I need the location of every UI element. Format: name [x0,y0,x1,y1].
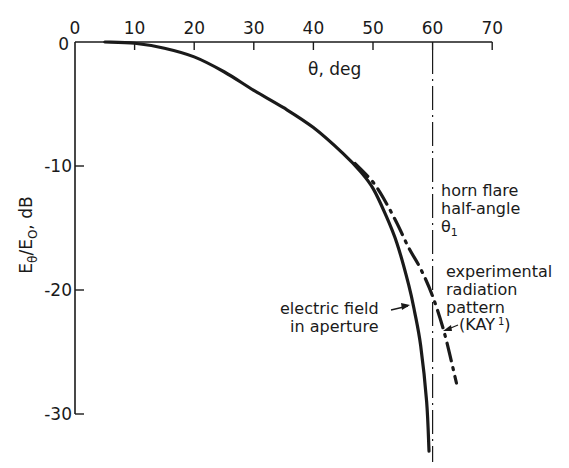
x-tick-label: 30 [243,18,265,38]
y-tick-label: -10 [44,156,72,176]
svg-text:θ1: θ1 [441,217,458,239]
x-tick-label: 60 [422,18,444,38]
svg-text:Eθ/EO, dB: Eθ/EO, dB [16,196,40,273]
radiation-pattern-chart: 010203040506070-10-20-300 θ, deg Eθ/EO, … [0,0,569,468]
x-tick-label: 70 [481,18,503,38]
svg-text:half-angle: half-angle [441,199,520,218]
x-axis-title: θ, deg [308,59,361,79]
x-tick-label: 50 [362,18,384,38]
y-tick-label: -30 [44,404,72,424]
svg-text:radiation: radiation [446,280,517,299]
y-axis-title: Eθ/EO, dB [16,196,40,273]
x-tick-label: 20 [183,18,205,38]
svg-text:horn flare: horn flare [441,181,518,200]
x-tick-label: 0 [70,18,81,38]
svg-text:in aperture: in aperture [290,317,379,336]
svg-text:experimental: experimental [446,262,552,281]
y-tick-label: -20 [44,280,72,300]
svg-text:electric field: electric field [280,299,379,318]
series-layer [105,42,457,451]
aperture-field-curve [105,42,429,451]
svg-text:(KAY1): (KAY1) [459,315,511,334]
annotation-electric-field: electric field in aperture [280,299,410,336]
annotation-horn-flare: horn flare half-angle θ1 [441,181,520,239]
x-tick-label: 10 [124,18,146,38]
annotation-experimental: experimental radiation pattern (KAY1) [443,262,552,334]
axes: 010203040506070-10-20-300 [44,18,503,424]
origin-label: 0 [58,34,69,54]
x-tick-label: 40 [303,18,325,38]
